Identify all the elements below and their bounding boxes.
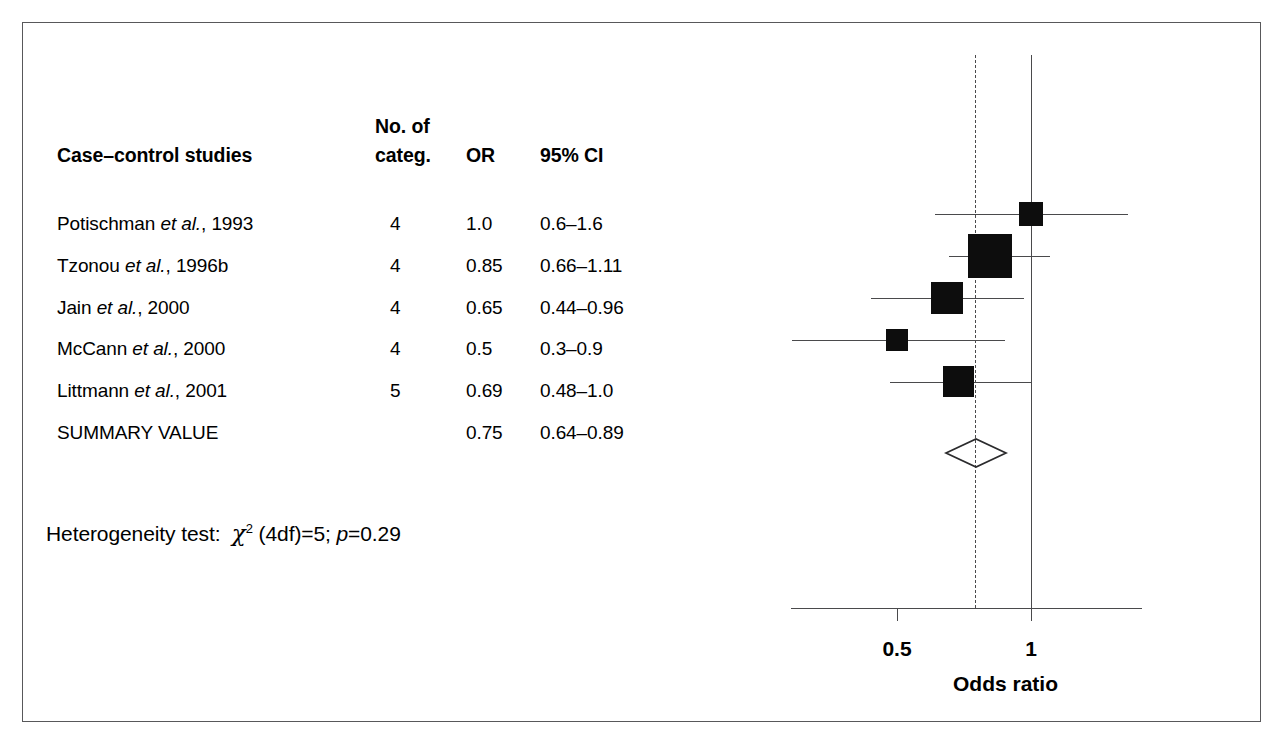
chi-symbol: χ bbox=[232, 520, 246, 546]
table-row-ci: 0.66–1.11 bbox=[540, 256, 622, 275]
column-header-ci: 95% CI bbox=[540, 146, 603, 166]
table-row-or: 0.69 bbox=[466, 381, 503, 400]
x-axis-tick-label-1: 1 bbox=[1001, 638, 1061, 659]
heterogeneity-test-line: Heterogeneity test: χ2 (4df)=5; p=0.29 bbox=[46, 522, 401, 545]
chi-exponent: 2 bbox=[246, 521, 253, 536]
table-row-ci: 0.48–1.0 bbox=[540, 381, 613, 400]
row-author: Littmann bbox=[57, 380, 134, 401]
forest-plot-figure: Case–control studies No. of categ. OR 95… bbox=[0, 0, 1279, 746]
row-year: , 2000 bbox=[173, 338, 225, 359]
row-etal: et al. bbox=[134, 380, 175, 401]
table-row-ci: 0.6–1.6 bbox=[540, 214, 603, 233]
table-row-categ: 4 bbox=[390, 256, 400, 275]
table-row-study-label: Littmann et al., 2001 bbox=[57, 381, 227, 400]
column-header-categ-line1: No. of bbox=[375, 117, 430, 137]
table-row-study-label: Tzonou et al., 1996b bbox=[57, 256, 228, 275]
heterogeneity-df: (4df)=5; bbox=[259, 522, 331, 545]
row-author: Tzonou bbox=[57, 255, 125, 276]
row-etal: et al. bbox=[125, 255, 166, 276]
figure-frame bbox=[22, 22, 1261, 722]
table-row-categ: 5 bbox=[390, 381, 400, 400]
row-author: McCann bbox=[57, 338, 132, 359]
table-row-categ: 4 bbox=[390, 298, 400, 317]
row-author: Potischman bbox=[57, 213, 160, 234]
x-axis-tick-label-0: 0.5 bbox=[867, 638, 927, 659]
column-header-categ-line2: categ. bbox=[375, 146, 431, 166]
summary-row-or: 0.75 bbox=[466, 423, 503, 442]
table-row-or: 0.65 bbox=[466, 298, 503, 317]
row-year: , 1996b bbox=[166, 255, 229, 276]
p-value: =0.29 bbox=[348, 522, 401, 545]
table-row-or: 0.85 bbox=[466, 256, 503, 275]
table-row-ci: 0.44–0.96 bbox=[540, 298, 624, 317]
summary-row-ci: 0.64–0.89 bbox=[540, 423, 624, 442]
row-etal: et al. bbox=[97, 297, 138, 318]
summary-row-label: SUMMARY VALUE bbox=[57, 423, 218, 442]
row-year: , 1993 bbox=[201, 213, 253, 234]
table-row-categ: 4 bbox=[390, 339, 400, 358]
row-author: Jain bbox=[57, 297, 97, 318]
row-etal: et al. bbox=[160, 213, 201, 234]
table-row-study-label: Potischman et al., 1993 bbox=[57, 214, 253, 233]
column-header-or: OR bbox=[466, 146, 495, 166]
table-row-study-label: McCann et al., 2000 bbox=[57, 339, 225, 358]
table-row-study-label: Jain et al., 2000 bbox=[57, 298, 189, 317]
table-row-or: 0.5 bbox=[466, 339, 492, 358]
table-row-ci: 0.3–0.9 bbox=[540, 339, 603, 358]
row-etal: et al. bbox=[132, 338, 173, 359]
x-axis-title: Odds ratio bbox=[953, 673, 1058, 694]
p-symbol: p bbox=[337, 522, 349, 545]
table-row-or: 1.0 bbox=[466, 214, 492, 233]
column-header-study: Case–control studies bbox=[57, 146, 252, 166]
table-row-categ: 4 bbox=[390, 214, 400, 233]
heterogeneity-prefix: Heterogeneity test: bbox=[46, 522, 220, 545]
row-year: , 2001 bbox=[175, 380, 227, 401]
row-year: , 2000 bbox=[137, 297, 189, 318]
